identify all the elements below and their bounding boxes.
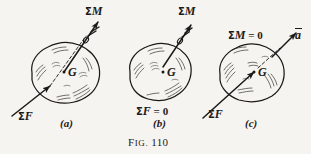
label-center-of-mass-b: G: [167, 66, 176, 78]
label-acceleration-c: a: [295, 29, 311, 41]
sigma-glyph: Σ: [18, 111, 25, 122]
caption-number-value: 110: [151, 136, 168, 148]
sigma-glyph: Σ: [85, 6, 92, 17]
vector-overbar-icon: [295, 28, 302, 29]
panel-tag-c: (c): [245, 118, 257, 129]
rigid-body-outline-a: [32, 43, 100, 104]
force-variable: F: [215, 107, 223, 121]
sigma-glyph: Σ: [178, 6, 185, 17]
center-of-mass-dot-b: [162, 71, 165, 74]
moment-variable: M: [235, 28, 246, 42]
acceleration-vector-c: [272, 33, 296, 57]
label-sum-force-a: ΣF: [18, 110, 33, 122]
sigma-glyph: Σ: [208, 109, 215, 120]
label-sum-moment-b: ΣM: [178, 5, 196, 17]
equals-zero: = 0: [151, 105, 168, 117]
moment-variable: M: [92, 4, 103, 18]
figure-caption: FIG. 110: [128, 137, 168, 148]
panel-tag-a: (a): [60, 118, 73, 129]
center-of-mass-dot-c: [253, 71, 256, 74]
caption-rest: IG.: [135, 138, 149, 148]
force-variable: F: [25, 109, 33, 123]
figure-110: ΣM ΣF G (a) ΣM ΣF = 0 G (b) ΣM = 0 ΣF a …: [0, 0, 311, 154]
force-variable: F: [143, 104, 151, 118]
equals-zero: = 0: [246, 29, 263, 41]
sigma-glyph: Σ: [136, 106, 143, 117]
caption-lead: F: [128, 136, 135, 148]
rigid-body-outline-b: [130, 44, 192, 101]
acceleration-variable: a: [295, 28, 301, 42]
panel-tag-b: (b): [153, 118, 166, 129]
label-sum-force-zero-b: ΣF = 0: [136, 105, 168, 117]
label-sum-moment-a: ΣM: [85, 5, 103, 17]
label-sum-force-c: ΣF: [208, 108, 223, 120]
sigma-glyph: Σ: [228, 30, 235, 41]
label-sum-moment-zero-c: ΣM = 0: [228, 29, 263, 41]
moment-variable: M: [185, 4, 196, 18]
label-center-of-mass-c: G: [258, 66, 267, 78]
label-center-of-mass-a: G: [68, 66, 77, 78]
center-of-mass-dot-a: [63, 71, 66, 74]
